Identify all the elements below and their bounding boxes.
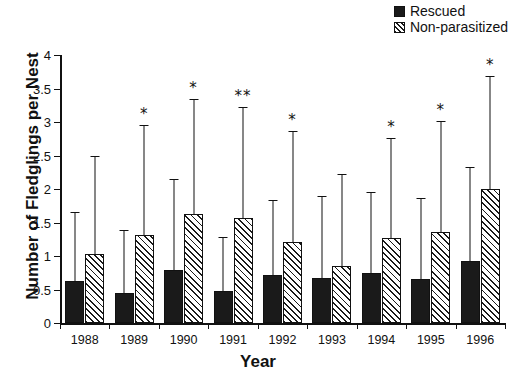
- x-axis-tick-label: 1994: [367, 333, 395, 347]
- x-axis-tick-label: 1988: [71, 333, 99, 347]
- bar-rescued-1989: [115, 293, 134, 323]
- error-bar-stem: [371, 192, 372, 273]
- x-axis-tick: [60, 323, 61, 329]
- error-bar-cap: [219, 237, 228, 238]
- error-bar-stem: [292, 131, 293, 242]
- y-axis-tick-label: 1: [44, 249, 51, 264]
- error-bar-rescued-1989: [115, 230, 134, 293]
- error-bar-cap: [120, 230, 129, 231]
- error-bar-rescued-1995: [411, 198, 430, 280]
- bar-rescued-1992: [263, 275, 282, 323]
- bar-rescued-1996: [461, 261, 480, 323]
- error-bar-non-parasitized-1994: [382, 138, 401, 238]
- error-bar-rescued-1993: [312, 196, 331, 278]
- x-axis-tick: [505, 323, 506, 329]
- error-bar-stem: [321, 196, 322, 278]
- error-bar-cap: [239, 107, 248, 108]
- fledglings-per-nest-chart: Rescued Non-parasitized Number of Fledgl…: [0, 0, 516, 377]
- error-bar-cap: [140, 125, 149, 126]
- legend-label-non-parasitized: Non-parasitized: [410, 20, 508, 34]
- bar-rescued-1990: [164, 270, 183, 323]
- error-bar-stem: [341, 174, 342, 266]
- legend-swatch-rescued: [394, 6, 405, 17]
- error-bar-stem: [391, 138, 392, 238]
- x-axis-tick-label: 1992: [269, 333, 297, 347]
- error-bar-cap: [466, 167, 475, 168]
- error-bar-rescued-1988: [65, 212, 84, 281]
- significance-marker-1995: *: [437, 103, 446, 118]
- bar-rescued-1993: [312, 278, 331, 323]
- x-axis-tick-label: 1991: [219, 333, 247, 347]
- x-axis-tick-label: 1995: [417, 333, 445, 347]
- error-bar-stem: [470, 167, 471, 261]
- bar-rescued-1994: [362, 273, 381, 323]
- error-bar-non-parasitized-1990: [184, 99, 203, 214]
- x-axis-tick-label: 1990: [170, 333, 198, 347]
- error-bar-cap: [416, 198, 425, 199]
- bar-non-parasitized-1990: [184, 214, 203, 323]
- x-axis-tick: [456, 323, 457, 329]
- x-axis-tick-label: 1996: [466, 333, 494, 347]
- significance-marker-1992: *: [288, 113, 297, 128]
- error-bar-cap: [90, 156, 99, 157]
- legend-label-rescued: Rescued: [410, 4, 465, 18]
- x-axis-tick: [109, 323, 110, 329]
- y-axis-tick-label: 3.5: [33, 81, 51, 96]
- y-axis-tick: [54, 189, 60, 190]
- error-bar-stem: [440, 121, 441, 232]
- bar-rescued-1991: [214, 291, 233, 323]
- error-bar-stem: [490, 76, 491, 189]
- error-bar-non-parasitized-1988: [85, 156, 104, 254]
- error-bar-rescued-1990: [164, 179, 183, 270]
- y-axis-tick: [54, 223, 60, 224]
- y-axis-tick: [54, 89, 60, 90]
- error-bar-non-parasitized-1993: [332, 174, 351, 266]
- error-bar-stem: [144, 125, 145, 235]
- error-bar-cap: [367, 192, 376, 193]
- error-bar-cap: [317, 196, 326, 197]
- bar-non-parasitized-1991: [234, 218, 253, 323]
- bar-non-parasitized-1996: [481, 189, 500, 323]
- y-axis-tick-label: 1.5: [33, 215, 51, 230]
- legend-item-non-parasitized: Non-parasitized: [394, 20, 508, 34]
- y-axis-line: [60, 55, 62, 323]
- error-bar-non-parasitized-1996: [481, 76, 500, 189]
- significance-marker-1994: *: [387, 120, 396, 135]
- y-axis-tick: [54, 256, 60, 257]
- x-axis-tick: [307, 323, 308, 329]
- y-axis-tick: [54, 55, 60, 56]
- x-axis-tick: [159, 323, 160, 329]
- bar-non-parasitized-1988: [85, 254, 104, 323]
- error-bar-cap: [436, 121, 445, 122]
- x-axis-title: Year: [0, 352, 516, 372]
- bar-non-parasitized-1995: [431, 232, 450, 323]
- y-axis-tick: [54, 290, 60, 291]
- x-axis-tick: [208, 323, 209, 329]
- error-bar-cap: [387, 138, 396, 139]
- error-bar-cap: [70, 212, 79, 213]
- error-bar-stem: [173, 179, 174, 270]
- bar-rescued-1995: [411, 279, 430, 323]
- y-axis-tick: [54, 156, 60, 157]
- x-axis-tick-label: 1989: [120, 333, 148, 347]
- y-axis-tick-label: 4: [44, 48, 51, 63]
- bar-non-parasitized-1994: [382, 238, 401, 323]
- bar-non-parasitized-1992: [283, 242, 302, 323]
- error-bar-cap: [337, 174, 346, 175]
- x-axis-tick: [258, 323, 259, 329]
- x-axis-tick: [406, 323, 407, 329]
- bar-non-parasitized-1993: [332, 266, 351, 323]
- error-bar-stem: [420, 198, 421, 280]
- x-axis-line: [60, 323, 505, 325]
- y-axis-tick-label: 3: [44, 115, 51, 130]
- error-bar-stem: [272, 200, 273, 276]
- significance-marker-1989: *: [140, 107, 149, 122]
- error-bar-rescued-1991: [214, 237, 233, 291]
- chart-legend: Rescued Non-parasitized: [394, 4, 508, 34]
- error-bar-cap: [486, 76, 495, 77]
- error-bar-rescued-1992: [263, 200, 282, 276]
- significance-marker-1991: **: [235, 89, 252, 104]
- significance-marker-1996: *: [486, 58, 495, 73]
- legend-item-rescued: Rescued: [394, 4, 465, 18]
- error-bar-stem: [94, 156, 95, 254]
